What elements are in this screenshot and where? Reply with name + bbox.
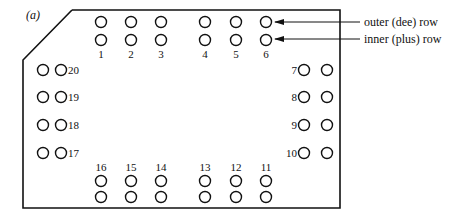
pin-15-outer	[126, 192, 137, 203]
pin-label-6: 6	[256, 49, 276, 60]
pin-9-outer	[322, 120, 333, 131]
pin-18-outer	[38, 120, 49, 131]
pin-4-outer	[200, 17, 211, 28]
pin-label-20: 20	[68, 65, 79, 76]
pin-label-19: 19	[68, 92, 79, 103]
pin-label-14: 14	[151, 162, 171, 173]
pin-6-outer	[261, 17, 272, 28]
pin-8-outer	[322, 92, 333, 103]
pin-5-outer	[231, 17, 242, 28]
pin-13-inner	[200, 176, 211, 187]
pin-label-8: 8	[277, 92, 297, 103]
pin-label-1: 1	[91, 49, 111, 60]
pin-3-outer	[156, 17, 167, 28]
pin-20-outer	[38, 65, 49, 76]
pin-label-9: 9	[277, 120, 297, 131]
pin-18-inner	[56, 120, 67, 131]
pin-12-inner	[231, 176, 242, 187]
pin-15-inner	[126, 176, 137, 187]
pin-label-16: 16	[91, 162, 111, 173]
inner-row-label: inner (plus) row	[364, 33, 441, 45]
pin-label-3: 3	[151, 49, 171, 60]
pin-8-inner	[299, 92, 310, 103]
pin-2-outer	[126, 17, 137, 28]
pin-12-outer	[231, 192, 242, 203]
pin-1-outer	[96, 17, 107, 28]
pin-label-7: 7	[277, 65, 297, 76]
pin-19-outer	[38, 92, 49, 103]
pin-14-outer	[156, 192, 167, 203]
pin-9-inner	[299, 120, 310, 131]
figure-label: (a)	[26, 8, 40, 23]
pin-17-inner	[56, 148, 67, 159]
pin-11-inner	[261, 176, 272, 187]
pin-11-outer	[261, 192, 272, 203]
pin-17-outer	[38, 148, 49, 159]
pin-label-10: 10	[277, 148, 297, 159]
pin-label-2: 2	[121, 49, 141, 60]
pin-20-inner	[56, 65, 67, 76]
pin-10-outer	[322, 148, 333, 159]
pin-label-5: 5	[226, 49, 246, 60]
outer-row-label: outer (dee) row	[364, 16, 438, 28]
pin-7-inner	[299, 65, 310, 76]
pin-label-11: 11	[256, 162, 276, 173]
pin-label-18: 18	[68, 120, 79, 131]
pin-3-inner	[156, 35, 167, 46]
pin-label-17: 17	[68, 148, 79, 159]
pin-label-4: 4	[195, 49, 215, 60]
pin-2-inner	[126, 35, 137, 46]
pin-label-13: 13	[195, 162, 215, 173]
pin-5-inner	[231, 35, 242, 46]
arrow-outer-row	[274, 19, 360, 25]
pin-label-15: 15	[121, 162, 141, 173]
pin-4-inner	[200, 35, 211, 46]
pin-10-inner	[299, 148, 310, 159]
pin-label-12: 12	[226, 162, 246, 173]
pin-6-inner	[261, 35, 272, 46]
arrow-inner-row	[274, 36, 360, 42]
pin-1-inner	[96, 35, 107, 46]
pin-16-inner	[96, 176, 107, 187]
pin-14-inner	[156, 176, 167, 187]
pin-7-outer	[322, 65, 333, 76]
board-outline	[23, 10, 340, 208]
pin-19-inner	[56, 92, 67, 103]
pin-13-outer	[200, 192, 211, 203]
pin-16-outer	[96, 192, 107, 203]
